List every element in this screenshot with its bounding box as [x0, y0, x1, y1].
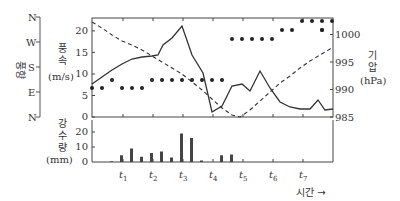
wind-axis-title-2: 속 — [58, 55, 67, 66]
direction-axis — [36, 17, 40, 117]
wind-tick-0: 0 — [82, 111, 88, 122]
pressure-tick-1000: 1000 — [335, 29, 360, 40]
direction-tick-e: E — [28, 87, 35, 98]
tick-t3: t3 — [179, 169, 188, 183]
tick-t6: t6 — [269, 169, 278, 183]
direction-tick-s: S — [28, 62, 35, 73]
rain-axis-title-1: 강 — [58, 118, 67, 129]
direction-tick-n-bottom: N — [28, 112, 37, 123]
direction-tick-w: W — [26, 37, 37, 48]
pressure-tick-995: 995 — [335, 57, 354, 68]
rain-tick-10: 10 — [75, 141, 88, 152]
wind-tick-10: 10 — [75, 68, 88, 79]
tick-t4: t4 — [209, 169, 218, 183]
pressure-tick-990: 990 — [335, 84, 354, 95]
tick-t5: t5 — [239, 169, 248, 183]
rain-tick-0: 0 — [82, 156, 88, 167]
pressure-axis-title-1: 기 — [368, 50, 377, 61]
time-axis-label: 시간 → — [296, 187, 326, 198]
rain-axis-unit: (mm) — [46, 154, 73, 165]
time-ticks-top — [123, 18, 303, 117]
tick-t2: t2 — [149, 169, 158, 183]
pressure-axis-unit: (hPa) — [360, 75, 387, 86]
pressure-tick-985: 985 — [335, 112, 354, 123]
rain-tick-20: 20 — [75, 126, 88, 137]
wind-direction-dots — [90, 19, 334, 90]
pressure-line — [92, 22, 333, 117]
rain-bars — [110, 134, 233, 163]
direction-tick-n-top: N — [28, 12, 37, 23]
pressure-axis-title-2: 압 — [368, 61, 377, 73]
wind-tick-5: 5 — [82, 90, 88, 101]
rain-axis-title-3: 량 — [58, 142, 67, 153]
time-tick-labels: t1 t2 t3 t4 t5 t6 t7 — [119, 169, 308, 183]
tick-t7: t7 — [299, 169, 308, 183]
wind-tick-15: 15 — [75, 47, 88, 58]
rain-panel-axes — [92, 120, 333, 162]
direction-axis-title: 풍향 — [15, 61, 26, 79]
wind-axis-title-1: 풍 — [58, 43, 67, 54]
wind-axis-unit: (m/s) — [48, 71, 74, 82]
tick-t1: t1 — [119, 169, 128, 183]
wind-tick-20: 20 — [75, 25, 88, 36]
rain-axis-title-2: 수 — [58, 130, 67, 141]
weather-chart: N W S E N 풍향 20 15 10 5 0 풍 속 (m/s) 1000… — [0, 0, 400, 201]
main-plot-frame — [92, 18, 333, 117]
